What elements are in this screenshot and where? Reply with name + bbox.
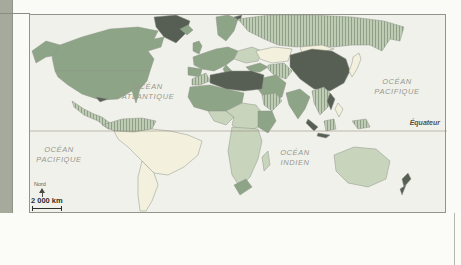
scale-bar xyxy=(32,206,62,211)
region-brazil xyxy=(114,129,202,175)
world-map xyxy=(30,15,447,214)
region-scandinavia xyxy=(216,15,238,41)
region-borneo xyxy=(324,119,336,131)
region-sumatra xyxy=(306,119,318,131)
label-ocean-indien: OCÉAN INDIEN xyxy=(264,148,326,168)
region-philippines xyxy=(335,103,343,117)
legend: Situation bonne Situation plutôt bonne P… xyxy=(0,213,461,265)
label-equateur: Équateur xyxy=(380,119,440,126)
scale-label: 2 000 km xyxy=(31,196,63,205)
region-uk xyxy=(193,41,202,54)
region-southern-africa xyxy=(228,127,262,187)
region-china xyxy=(290,49,350,91)
label-ocean-pacifique-est: OCÉAN PACIFIQUE xyxy=(366,77,428,97)
region-java xyxy=(317,133,330,138)
label-ocean-pacifique-ouest: OCÉAN PACIFIQUE xyxy=(28,145,90,165)
map-regions xyxy=(32,15,411,211)
top-rule xyxy=(0,13,30,14)
region-new-zealand-south xyxy=(400,185,406,195)
region-new-guinea xyxy=(352,119,370,129)
region-turkey xyxy=(246,63,268,72)
label-ocean-atlantique: OCÉAN ATLANTIQUE xyxy=(117,82,179,102)
region-central-asia xyxy=(256,47,292,63)
region-east-africa xyxy=(258,111,276,133)
north-label: Nord xyxy=(34,181,46,187)
region-india xyxy=(286,89,310,119)
region-canada xyxy=(52,27,164,71)
world-map-panel: OCÉAN ATLANTIQUE OCÉAN PACIFIQUE OCÉAN P… xyxy=(29,14,446,213)
region-japan xyxy=(349,53,361,77)
right-rule xyxy=(454,213,455,265)
region-new-zealand-north xyxy=(402,173,411,187)
region-australia xyxy=(334,147,390,187)
